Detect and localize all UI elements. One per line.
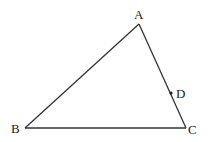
label-b: B xyxy=(11,121,20,136)
label-c: C xyxy=(188,122,197,137)
label-d: D xyxy=(176,86,185,101)
triangle-diagram: A B C D xyxy=(0,0,208,142)
segment-ab xyxy=(25,24,139,128)
segment-ca xyxy=(139,24,186,128)
label-a: A xyxy=(134,7,144,22)
point-d-dot xyxy=(169,91,172,94)
